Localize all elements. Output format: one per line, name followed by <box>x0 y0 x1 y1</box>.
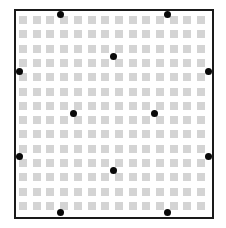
grid-cell <box>46 202 54 210</box>
grid-cell <box>129 59 137 67</box>
grid-cell <box>129 130 137 138</box>
grid-cell <box>156 188 164 196</box>
grid-cell <box>183 130 191 138</box>
grid-cell <box>19 102 27 110</box>
grid-cell <box>129 16 137 24</box>
grid-cell <box>88 59 96 67</box>
grid-cell <box>60 88 68 96</box>
grid-cell <box>33 16 41 24</box>
grid-cell <box>115 188 123 196</box>
grid-cell <box>88 159 96 167</box>
grid-cell <box>115 202 123 210</box>
grid-cell <box>142 88 150 96</box>
grid-cell <box>170 88 178 96</box>
grid-cell <box>156 202 164 210</box>
dot-marker-top-left <box>57 11 64 18</box>
grid-cell <box>33 30 41 38</box>
grid-cell <box>129 30 137 38</box>
grid-cell <box>183 88 191 96</box>
grid-cell <box>197 145 205 153</box>
grid-cell <box>60 45 68 53</box>
grid-cell <box>46 188 54 196</box>
grid-cell <box>183 159 191 167</box>
grid-cell <box>46 30 54 38</box>
grid-cell <box>33 130 41 138</box>
grid-cell <box>129 202 137 210</box>
grid-cell <box>183 30 191 38</box>
grid-cell <box>60 130 68 138</box>
grid-cell <box>60 59 68 67</box>
grid-cell <box>46 173 54 181</box>
grid-cell <box>142 159 150 167</box>
grid-cell <box>156 73 164 81</box>
grid-cell <box>33 202 41 210</box>
grid-cell <box>197 30 205 38</box>
grid-cell <box>115 73 123 81</box>
grid-cell <box>101 202 109 210</box>
grid-cell <box>88 130 96 138</box>
grid-cell <box>60 116 68 124</box>
grid-cell <box>170 73 178 81</box>
grid-cell <box>142 130 150 138</box>
grid-cell <box>115 116 123 124</box>
grid-cell <box>74 116 82 124</box>
grid-cell <box>74 45 82 53</box>
grid-cell <box>170 59 178 67</box>
grid-cell <box>74 173 82 181</box>
grid-cell <box>129 188 137 196</box>
grid-cell <box>129 45 137 53</box>
grid-cell <box>183 202 191 210</box>
grid-cell <box>46 159 54 167</box>
dot-marker-middle-right <box>151 110 158 117</box>
grid-cell <box>46 73 54 81</box>
grid-cell <box>156 145 164 153</box>
grid-cell <box>183 59 191 67</box>
grid-cell <box>142 102 150 110</box>
grid-cell <box>88 88 96 96</box>
grid-cell <box>46 145 54 153</box>
grid-cell <box>19 16 27 24</box>
grid-cell <box>101 59 109 67</box>
grid-cell <box>101 73 109 81</box>
grid-cell <box>46 59 54 67</box>
grid-cell <box>129 145 137 153</box>
dot-marker-right-lower <box>205 153 212 160</box>
grid-cell <box>60 102 68 110</box>
grid-cell <box>88 173 96 181</box>
grid-cell <box>74 30 82 38</box>
grid-cell <box>129 73 137 81</box>
grid-cell <box>170 116 178 124</box>
grid-cell <box>142 188 150 196</box>
grid-cell <box>115 102 123 110</box>
grid-cell <box>156 130 164 138</box>
grid-cell <box>88 145 96 153</box>
grid-cell <box>46 88 54 96</box>
grid-cell <box>19 173 27 181</box>
grid-cell <box>170 30 178 38</box>
grid-cell <box>74 159 82 167</box>
grid-cell <box>170 130 178 138</box>
grid-cell <box>46 16 54 24</box>
grid-cell <box>60 73 68 81</box>
grid-cell <box>183 188 191 196</box>
grid-cell <box>101 102 109 110</box>
grid-cell <box>74 102 82 110</box>
grid-cell <box>74 188 82 196</box>
grid-cell <box>33 159 41 167</box>
grid-cell <box>142 59 150 67</box>
grid-cell <box>101 145 109 153</box>
grid-cell <box>170 45 178 53</box>
grid-cell <box>74 16 82 24</box>
grid-cell <box>115 45 123 53</box>
grid-cell <box>129 173 137 181</box>
grid-cell <box>183 173 191 181</box>
grid-cell <box>142 45 150 53</box>
grid-cell <box>115 145 123 153</box>
grid-cell <box>197 173 205 181</box>
grid-cell <box>19 59 27 67</box>
grid-cell <box>60 30 68 38</box>
grid-cell <box>74 145 82 153</box>
grid-cell <box>101 16 109 24</box>
grid-cell <box>101 30 109 38</box>
grid-cell <box>19 159 27 167</box>
